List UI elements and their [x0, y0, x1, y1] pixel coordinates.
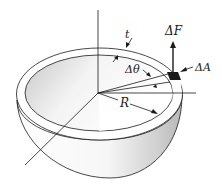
- angle-label: Δθ: [125, 64, 140, 75]
- radius-label: R: [120, 97, 129, 109]
- area-leader-arrowhead-icon: [180, 67, 187, 72]
- force-arrowhead-icon: [170, 41, 176, 48]
- force-label: ΔF: [165, 25, 182, 37]
- thickness-label: t: [125, 29, 129, 40]
- hemisphere-shell-diagram: [0, 0, 222, 185]
- area-label: ΔA: [195, 62, 211, 73]
